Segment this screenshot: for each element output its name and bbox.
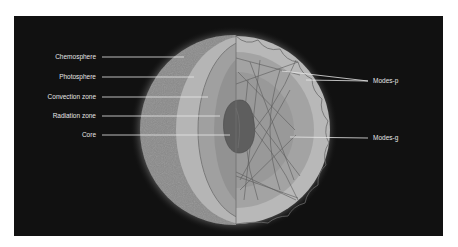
label-core: Core bbox=[40, 131, 96, 139]
label-chemosphere: Chemosphere bbox=[40, 53, 96, 61]
label-modes-g: Modes-g bbox=[373, 134, 398, 142]
label-convection-zone: Convection zone bbox=[30, 93, 96, 101]
label-modes-p: Modes-p bbox=[373, 77, 398, 85]
sun-structure-diagram bbox=[0, 0, 458, 247]
label-radiation-zone: Radiation zone bbox=[30, 112, 96, 120]
label-photosphere: Photosphere bbox=[40, 73, 96, 81]
core-shape bbox=[224, 100, 255, 153]
